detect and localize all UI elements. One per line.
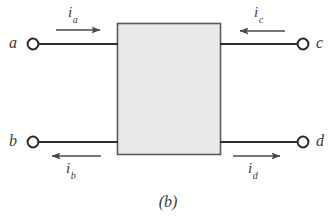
terminal-node-d	[298, 137, 309, 148]
terminal-label-b: b	[9, 133, 17, 149]
current-label-ib: ib	[66, 161, 75, 179]
current-symbol-ib: i	[66, 160, 70, 176]
current-subscript-ib: b	[71, 170, 76, 181]
terminal-node-a	[28, 39, 39, 50]
terminal-node-b	[28, 137, 39, 148]
current-label-ic: ic	[254, 5, 263, 23]
current-symbol-ia: i	[68, 4, 72, 20]
figure-caption: (b)	[0, 194, 336, 210]
current-subscript-ic: c	[259, 14, 263, 25]
terminal-node-c	[298, 39, 309, 50]
current-subscript-id: d	[253, 170, 258, 181]
terminal-label-a: a	[9, 35, 17, 51]
current-label-ia: ia	[68, 5, 77, 23]
current-subscript-ia: a	[73, 14, 78, 25]
terminal-label-c: c	[316, 35, 323, 51]
circuit-diagram-canvas	[0, 0, 336, 223]
terminal-label-d: d	[316, 133, 324, 149]
current-symbol-id: i	[248, 160, 252, 176]
circuit-figure: a c b d ia ic ib id (b)	[0, 0, 336, 223]
current-symbol-ic: i	[254, 4, 258, 20]
two-port-network-block	[118, 24, 221, 155]
current-label-id: id	[248, 161, 257, 179]
